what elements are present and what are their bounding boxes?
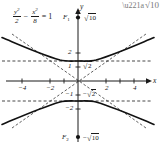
focus-upper-dot [76,15,80,19]
equation-term-y: y2 2 [13,7,21,25]
equation-term-x: x2 8 [31,7,39,25]
xtick-label--2: −2 [46,84,54,92]
ytick-label--1: −1 [65,90,73,98]
ytick-label--2: −2 [65,104,73,112]
x-axis-label: x [153,76,156,85]
x-axis-arrow [146,78,152,84]
equation-minus-sign: − [23,12,30,21]
xtick-label-2: 2 [105,84,109,92]
equation-label: y2 2 − x2 8 = 1 [13,7,53,25]
focus-lower-dot [76,135,80,139]
vertex-upper-label: √2 [83,61,92,71]
focus-upper-label: F1 [63,13,70,22]
ytick-label-1: 1 [68,62,72,70]
focus-lower-label: F2 [62,133,69,142]
hyperbola-figure: \u221a√10 y2 2 − x2 8 = 1 x y −4 −2 2 4 … [0,0,160,148]
corner-clipped-radical: \u221a√10 [121,0,159,10]
xtick-label-4: 4 [133,84,137,92]
focus-lower-value: −√10 [83,133,99,143]
y-axis-label: y [80,2,83,11]
ytick-label-2: 2 [68,48,72,56]
xtick-label--4: −4 [18,84,26,92]
focus-upper-value: √10 [84,13,96,23]
equation-equals: = 1 [41,12,54,21]
vertex-lower-label: −√2 [83,89,96,99]
